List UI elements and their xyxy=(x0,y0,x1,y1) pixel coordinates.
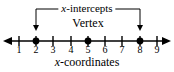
x-intercepts-label: x-intercepts xyxy=(58,3,115,14)
axis-right-arrowhead-icon xyxy=(162,37,171,45)
tick-label-9: 9 xyxy=(155,45,160,55)
tick-label-6: 6 xyxy=(103,45,108,55)
tick-label-4: 4 xyxy=(69,45,74,55)
axis-caption-text: -coordinates xyxy=(60,55,119,69)
right-intercept-arrowhead-icon xyxy=(137,25,143,31)
tick-label-1: 1 xyxy=(17,45,22,55)
x-intercepts-label-text: -intercepts xyxy=(66,2,112,14)
tick-label-5: 5 xyxy=(86,45,91,55)
axis-left-arrowhead-icon xyxy=(3,37,12,45)
tick-label-3: 3 xyxy=(51,45,56,55)
tick-label-7: 7 xyxy=(120,45,125,55)
tick-label-2: 2 xyxy=(34,45,39,55)
left-intercept-arrowhead-icon xyxy=(33,25,39,31)
number-line-figure: x-intercepts Vertex 1 2 3 4 5 6 7 8 9 x-… xyxy=(0,0,174,72)
vertex-label: Vertex xyxy=(70,17,105,29)
axis-caption: x-coordinates xyxy=(55,56,120,68)
tick-label-8: 8 xyxy=(138,45,143,55)
